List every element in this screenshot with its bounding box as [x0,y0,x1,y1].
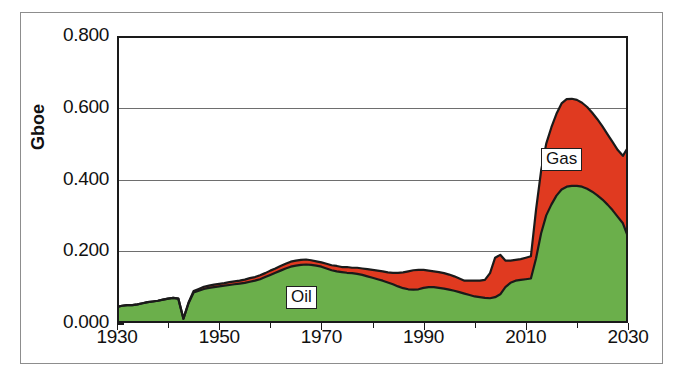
x-tick-label: 1970 [301,326,342,348]
series-label-oil: Oil [286,286,317,309]
chart-figure: Gboe 0.0000.2000.4000.6000.800 193019501… [0,0,680,378]
series-label-gas: Gas [541,148,582,171]
x-tick-label: 1950 [199,326,240,348]
plot-area [117,36,628,323]
stacked-area-series [117,36,628,323]
y-tick-label: 0.800 [63,24,109,46]
x-tick-label: 2030 [607,326,648,348]
y-tick-label: 0.600 [63,96,109,118]
x-tick-label: 1990 [403,326,444,348]
y-tick-mark [117,323,124,325]
plot-border-top [117,36,628,38]
y-tick-label: 0.400 [63,168,109,190]
y-axis-tick-labels: 0.0000.2000.4000.6000.800 [20,36,109,323]
plot-border-left [117,36,119,323]
plot-border-right [626,36,628,323]
x-tick-label: 1930 [96,326,137,348]
y-tick-label: 0.200 [63,239,109,261]
x-tick-label: 2010 [505,326,546,348]
x-axis-tick-labels: 193019501970199020102030 [117,326,628,356]
